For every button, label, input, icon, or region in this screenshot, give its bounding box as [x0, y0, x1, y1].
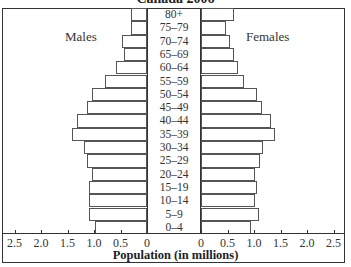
- age-group-label: 75–79: [147, 21, 201, 34]
- female-bar: [201, 61, 238, 74]
- age-group-label: 20–24: [147, 168, 201, 181]
- age-group-label: 55–59: [147, 75, 201, 88]
- male-bar: [122, 35, 147, 48]
- female-bar: [201, 75, 244, 88]
- age-group-label: 60–64: [147, 61, 201, 74]
- age-group-label: 45–49: [147, 101, 201, 114]
- female-bar: [201, 168, 255, 181]
- female-bar: [201, 128, 275, 141]
- x-tick: [281, 230, 282, 234]
- x-tick: [15, 230, 16, 234]
- female-bar: [201, 141, 263, 154]
- age-group-label: 5–9: [147, 208, 201, 221]
- chart-title: Canada 2006: [0, 0, 351, 7]
- female-bar: [201, 194, 255, 207]
- female-bar: [201, 208, 259, 221]
- x-tick: [68, 230, 69, 234]
- male-bar: [89, 194, 147, 207]
- male-bar: [116, 61, 147, 74]
- x-tick: [147, 230, 148, 234]
- male-bar: [72, 128, 147, 141]
- male-bar: [131, 8, 147, 21]
- x-tick: [307, 230, 308, 234]
- x-tick: [201, 230, 202, 234]
- age-group-label: 35–39: [147, 128, 201, 141]
- x-tick: [121, 230, 122, 234]
- male-bar: [131, 21, 147, 34]
- age-group-label: 70–74: [147, 35, 201, 48]
- age-group-label: 80+: [147, 8, 201, 21]
- female-bar: [201, 88, 257, 101]
- x-tick: [334, 230, 335, 234]
- female-bar: [201, 101, 262, 114]
- female-bar: [201, 154, 260, 167]
- male-bar: [89, 208, 147, 221]
- age-group-label: 65–69: [147, 48, 201, 61]
- female-bar: [201, 114, 271, 127]
- female-bar: [201, 48, 234, 61]
- female-bar: [201, 35, 230, 48]
- x-axis-line: [2, 233, 345, 234]
- male-bar: [124, 48, 147, 61]
- males-label: Males: [65, 29, 97, 45]
- male-bar: [77, 114, 147, 127]
- x-tick: [94, 230, 95, 234]
- age-group-label: 40–44: [147, 114, 201, 127]
- x-tick: [228, 230, 229, 234]
- male-bar: [92, 88, 147, 101]
- male-bar: [87, 154, 147, 167]
- age-group-label: 10–14: [147, 194, 201, 207]
- females-label: Females: [246, 29, 289, 45]
- female-bar: [201, 8, 234, 21]
- male-bar: [92, 168, 147, 181]
- male-bar: [87, 101, 147, 114]
- age-group-label: 50–54: [147, 88, 201, 101]
- age-group-label: 15–19: [147, 181, 201, 194]
- male-bar: [105, 75, 147, 88]
- age-group-label: 30–34: [147, 141, 201, 154]
- male-bar: [84, 141, 147, 154]
- male-bar: [89, 181, 147, 194]
- female-bar: [201, 21, 226, 34]
- x-tick: [41, 230, 42, 234]
- x-tick: [254, 230, 255, 234]
- age-group-label: 25–29: [147, 154, 201, 167]
- female-bar: [201, 181, 257, 194]
- x-axis-label: Population (in millions): [0, 248, 351, 263]
